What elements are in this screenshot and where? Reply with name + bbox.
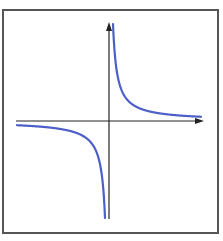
y-axis-arrow-icon [106, 22, 112, 31]
hyperbola-plot [0, 0, 223, 241]
hyperbola-figure [0, 0, 223, 241]
curve-left-branch [17, 125, 105, 218]
curve-right-branch [113, 24, 201, 117]
x-axis-arrow-icon [195, 118, 204, 124]
